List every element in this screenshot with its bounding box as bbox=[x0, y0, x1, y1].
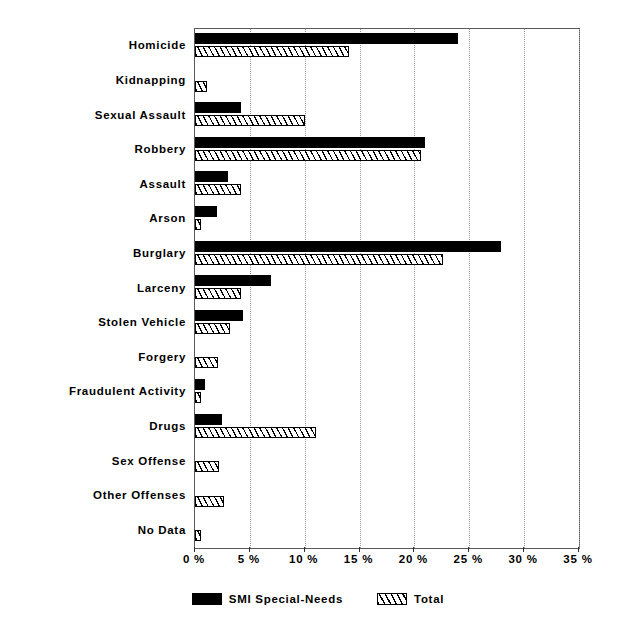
bar-group bbox=[195, 137, 579, 168]
bar-group bbox=[195, 68, 579, 99]
category-label: Fraudulent Activity bbox=[0, 385, 186, 397]
bar-total bbox=[195, 496, 224, 507]
bar-total bbox=[195, 392, 201, 403]
bar-group bbox=[195, 102, 579, 133]
category-label: Arson bbox=[0, 212, 186, 224]
bar-smi-special-needs bbox=[195, 310, 243, 321]
bar-group bbox=[195, 448, 579, 479]
category-label: Stolen Vehicle bbox=[0, 316, 186, 328]
x-tick-label: 30 % bbox=[493, 553, 553, 565]
category-label: Forgery bbox=[0, 351, 186, 363]
category-axis-labels: HomicideKidnappingSexual AssaultRobberyA… bbox=[0, 28, 186, 547]
bar-smi-special-needs bbox=[195, 241, 501, 252]
legend-entry: Total bbox=[377, 593, 444, 605]
x-axis-tick-labels: 0 %5 %10 %15 %20 %25 %30 %35 % bbox=[0, 553, 636, 573]
category-label: Drugs bbox=[0, 420, 186, 432]
bar-smi-special-needs bbox=[195, 275, 271, 286]
legend-entry: SMI Special-Needs bbox=[192, 593, 343, 605]
bar-group bbox=[195, 379, 579, 410]
plot-area bbox=[194, 28, 580, 549]
bar-total bbox=[195, 81, 207, 92]
bar-group bbox=[195, 310, 579, 341]
bar-smi-special-needs bbox=[195, 33, 458, 44]
category-label: Kidnapping bbox=[0, 74, 186, 86]
bar-total bbox=[195, 461, 219, 472]
bar-group bbox=[195, 344, 579, 375]
bar-group bbox=[195, 517, 579, 548]
x-tick-30 bbox=[523, 547, 524, 552]
category-label: No Data bbox=[0, 524, 186, 536]
x-tick-label: 25 % bbox=[438, 553, 498, 565]
x-tick-25 bbox=[468, 547, 469, 552]
chart-legend: SMI Special-NeedsTotal bbox=[0, 588, 636, 610]
x-tick-20 bbox=[413, 547, 414, 552]
x-tick-10 bbox=[304, 547, 305, 552]
bar-group bbox=[195, 275, 579, 306]
legend-label: Total bbox=[414, 593, 444, 605]
bar-total bbox=[195, 323, 230, 334]
category-label: Sex Offense bbox=[0, 455, 186, 467]
bar-total bbox=[195, 288, 241, 299]
category-label: Larceny bbox=[0, 282, 186, 294]
bar-smi-special-needs bbox=[195, 206, 217, 217]
category-label: Burglary bbox=[0, 247, 186, 259]
bar-total bbox=[195, 46, 349, 57]
category-label: Other Offenses bbox=[0, 489, 186, 501]
bar-smi-special-needs bbox=[195, 379, 205, 390]
x-tick-label: 35 % bbox=[548, 553, 608, 565]
bar-groups bbox=[195, 29, 579, 548]
category-label: Robbery bbox=[0, 143, 186, 155]
bar-smi-special-needs bbox=[195, 102, 241, 113]
bar-group bbox=[195, 414, 579, 445]
bar-smi-special-needs bbox=[195, 414, 222, 425]
x-tick-15 bbox=[359, 547, 360, 552]
x-tick-label: 5 % bbox=[219, 553, 279, 565]
category-label: Homicide bbox=[0, 39, 186, 51]
bar-group bbox=[195, 33, 579, 64]
x-tick-label: 0 % bbox=[164, 553, 224, 565]
bar-total bbox=[195, 184, 241, 195]
x-tick-0 bbox=[194, 547, 195, 552]
bar-total bbox=[195, 427, 316, 438]
bar-total bbox=[195, 254, 443, 265]
bar-group bbox=[195, 171, 579, 202]
horizontal-bar-chart: HomicideKidnappingSexual AssaultRobberyA… bbox=[0, 0, 636, 619]
legend-label: SMI Special-Needs bbox=[229, 593, 343, 605]
x-tick-label: 10 % bbox=[274, 553, 334, 565]
gridline-35 bbox=[579, 29, 580, 548]
bar-smi-special-needs bbox=[195, 137, 425, 148]
bar-total bbox=[195, 115, 305, 126]
x-tick-35 bbox=[578, 547, 579, 552]
category-label: Assault bbox=[0, 178, 186, 190]
x-tick-label: 20 % bbox=[383, 553, 443, 565]
solid-black-swatch bbox=[192, 593, 222, 605]
bar-total bbox=[195, 357, 218, 368]
category-label: Sexual Assault bbox=[0, 109, 186, 121]
x-tick-5 bbox=[249, 547, 250, 552]
bar-group bbox=[195, 483, 579, 514]
hatched-swatch bbox=[377, 593, 407, 605]
bar-total bbox=[195, 530, 201, 541]
x-tick-label: 15 % bbox=[329, 553, 389, 565]
bar-total bbox=[195, 219, 201, 230]
bar-smi-special-needs bbox=[195, 171, 228, 182]
bar-group bbox=[195, 206, 579, 237]
bar-group bbox=[195, 241, 579, 272]
bar-total bbox=[195, 150, 421, 161]
